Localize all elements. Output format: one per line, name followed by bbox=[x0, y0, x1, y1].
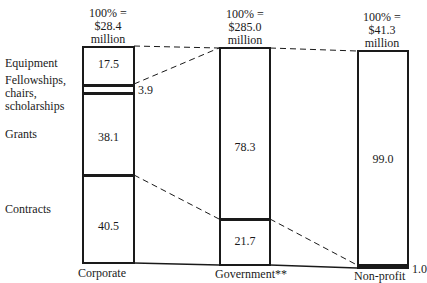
connector-corp-contracts-gov bbox=[134, 175, 219, 219]
connector-top-corp-gov bbox=[134, 46, 219, 48]
connector-corp-equipment-gov bbox=[134, 48, 219, 84]
category-label-corporate: Corporate bbox=[78, 267, 126, 280]
row-label-contracts: Contracts bbox=[5, 203, 51, 216]
connector-gov-contracts-np bbox=[270, 219, 357, 265]
government-total-line3: million bbox=[210, 34, 280, 47]
corporate-divider-equipment bbox=[82, 84, 135, 87]
connector-top-gov-np bbox=[270, 48, 357, 51]
government-divider-grants bbox=[219, 218, 271, 221]
corporate-contracts-value: 40.5 bbox=[84, 220, 133, 233]
corporate-divider-fellowships bbox=[82, 92, 135, 95]
row-label-fellowships-line3: scholarships bbox=[5, 100, 66, 113]
baseline-corp-gov bbox=[134, 263, 219, 265]
nonprofit-divider-grants bbox=[357, 264, 409, 267]
row-label-grants: Grants bbox=[5, 128, 37, 141]
corporate-total-label: 100% = $28.4 million bbox=[78, 7, 138, 46]
nonprofit-total-label: 100% = $41.3 million bbox=[352, 11, 412, 50]
nonprofit-total-line3: million bbox=[352, 37, 412, 50]
corporate-equipment-value: 17.5 bbox=[84, 58, 133, 71]
row-label-fellowships: Fellowships, chairs, scholarships bbox=[5, 74, 66, 113]
nonprofit-contracts-value: 1.0 bbox=[412, 263, 427, 276]
government-total-label: 100% = $285.0 million bbox=[210, 8, 280, 47]
government-grants-value: 78.3 bbox=[221, 141, 269, 154]
category-label-government: Government** bbox=[215, 268, 287, 281]
category-label-nonprofit: Non-profit bbox=[354, 270, 405, 283]
government-bar: 78.3 21.7 bbox=[219, 47, 271, 266]
corporate-bar: 17.5 38.1 40.5 bbox=[82, 46, 135, 264]
corporate-divider-grants bbox=[82, 174, 135, 177]
corporate-fellowships-value: 3.9 bbox=[138, 84, 153, 97]
row-label-equipment: Equipment bbox=[5, 57, 58, 70]
nonprofit-bar: 99.0 bbox=[357, 50, 409, 269]
nonprofit-grants-value: 99.0 bbox=[359, 153, 407, 166]
government-contracts-value: 21.7 bbox=[221, 235, 269, 248]
corporate-grants-value: 38.1 bbox=[84, 131, 133, 144]
corporate-total-line3: million bbox=[78, 33, 138, 46]
